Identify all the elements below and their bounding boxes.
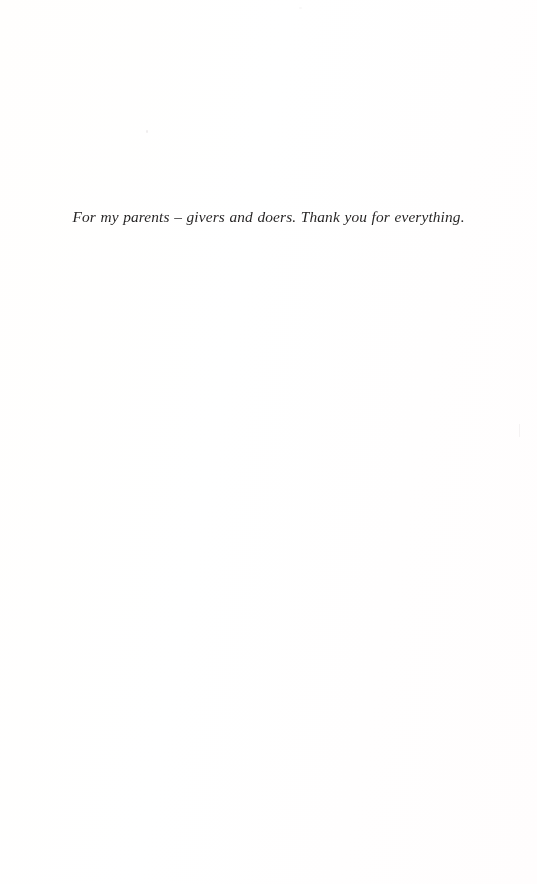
- paper-background: [0, 0, 537, 884]
- dedication-page: For my parents – givers and doers. Thank…: [0, 0, 537, 884]
- scan-speck-top-icon: [299, 7, 302, 9]
- scan-speck-icon: [146, 130, 148, 133]
- scan-edge-artifact-icon: [519, 424, 520, 437]
- dedication-block: For my parents – givers and doers. Thank…: [0, 206, 537, 228]
- dedication-text: For my parents – givers and doers. Thank…: [72, 206, 464, 228]
